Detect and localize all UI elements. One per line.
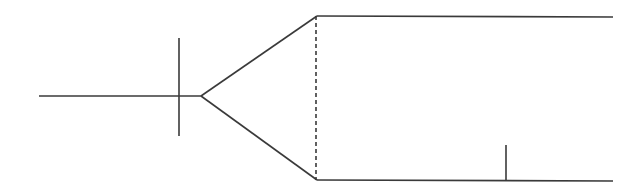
top-rail: [317, 16, 613, 17]
upper-diagonal: [201, 16, 317, 96]
lower-diagonal: [201, 96, 317, 180]
diagram-canvas: [0, 0, 644, 190]
diagram-segments: [39, 16, 613, 181]
line-diagram: [0, 0, 644, 190]
bottom-rail: [317, 180, 613, 181]
